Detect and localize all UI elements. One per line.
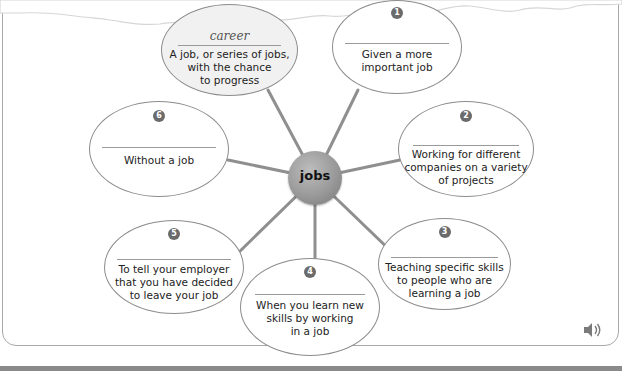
answer-line[interactable]: [345, 43, 449, 44]
bubble-item-6: 6 Without a job: [89, 101, 229, 197]
answer-line[interactable]: [102, 147, 216, 148]
definition: Without a job: [90, 154, 228, 167]
hub-circle-jobs: jobs: [288, 151, 342, 205]
definition: Given a more important job: [333, 48, 461, 74]
speaker-icon[interactable]: [583, 322, 603, 338]
example-word: career: [162, 29, 297, 43]
vocabulary-spider-diagram: career A job, or series of jobs, with th…: [0, 0, 622, 371]
hub-label: jobs: [288, 168, 342, 183]
example-definition: A job, or series of jobs, with the chanc…: [162, 48, 297, 87]
number-badge: 3: [439, 226, 451, 238]
number-badge: 5: [168, 228, 180, 240]
number-badge: 2: [460, 110, 472, 122]
definition: When you learn new skills by working in …: [241, 299, 379, 338]
bubble-item-5: 5 To tell your employer that you have de…: [104, 220, 244, 314]
number-badge: 6: [153, 110, 165, 122]
bubble-item-2: 2 Working for different companies on a v…: [398, 101, 534, 197]
example-bubble-career: career A job, or series of jobs, with th…: [161, 4, 298, 96]
number-badge: 4: [304, 266, 316, 278]
bubble-item-4: 4 When you learn new skills by working i…: [240, 258, 380, 356]
answer-line[interactable]: [255, 294, 365, 295]
bottom-divider-bar: [0, 366, 622, 371]
number-badge: 1: [391, 7, 403, 19]
answer-line[interactable]: [117, 259, 231, 260]
bubble-item-3: 3 Teaching specific skills to people who…: [378, 218, 511, 310]
answer-line: [178, 45, 281, 46]
bubble-item-1: 1 Given a more important job: [332, 0, 462, 94]
definition: Working for different companies on a var…: [399, 148, 533, 187]
answer-line[interactable]: [391, 257, 498, 258]
answer-line[interactable]: [413, 145, 519, 146]
definition: Teaching specific skills to people who a…: [379, 261, 510, 300]
definition: To tell your employer that you have deci…: [105, 263, 243, 302]
